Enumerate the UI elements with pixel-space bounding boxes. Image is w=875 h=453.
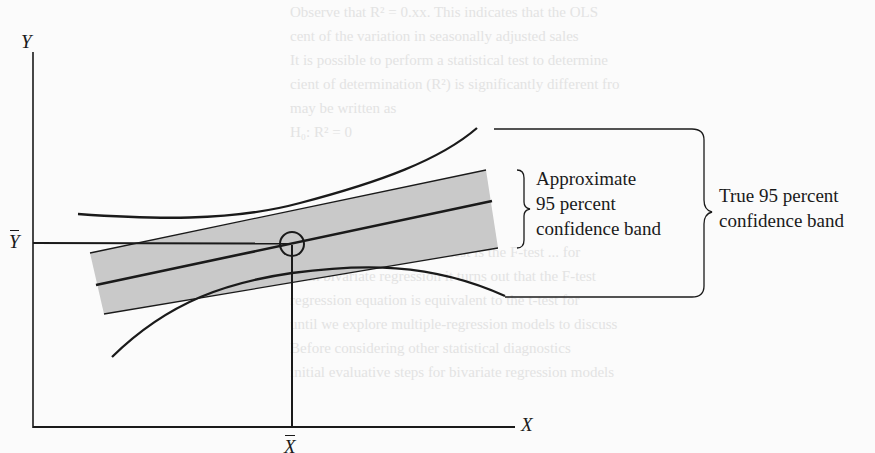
approximate-band-line3: confidence band [536, 216, 661, 241]
x-mean-text: X [284, 436, 296, 453]
macron-bar [10, 230, 19, 231]
true-band-line2: confidence band [719, 208, 844, 233]
approximate-band-annotation: Approximate 95 percent confidence band [536, 166, 661, 241]
approximate-band-line1: Approximate [536, 166, 661, 191]
true-band-brace [692, 129, 712, 297]
macron-bar [285, 435, 295, 436]
y-axis-label: Y [21, 31, 32, 53]
true-band-line1: True 95 percent [719, 183, 844, 208]
x-mean-label: X [284, 436, 296, 453]
y-mean-label: Y [9, 231, 20, 253]
y-mean-text: Y [9, 231, 20, 252]
approximate-band-brace [517, 170, 530, 248]
textbook-page: Observe that R² = 0.xx. This indicates t… [0, 0, 875, 453]
approximate-band-line2: 95 percent [536, 191, 661, 216]
true-band-annotation: True 95 percent confidence band [719, 183, 844, 233]
y-mean-guide-line [33, 243, 288, 244]
x-axis-label: X [521, 414, 533, 436]
